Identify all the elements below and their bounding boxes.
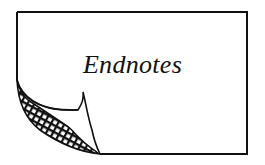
card-title: Endnotes bbox=[0, 50, 265, 80]
curled-page-icon bbox=[0, 0, 265, 165]
